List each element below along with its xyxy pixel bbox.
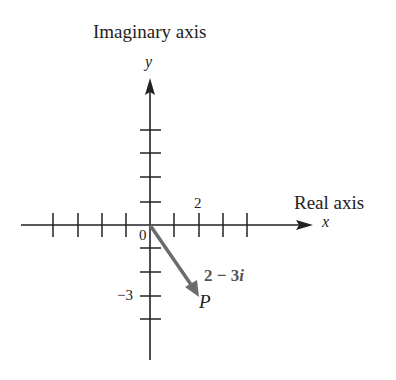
y-variable-label: y: [145, 54, 152, 70]
complex-number-label: 2 − 3i: [204, 267, 244, 284]
complex-unit: i: [239, 266, 244, 285]
complex-real-part: 2: [204, 266, 213, 285]
imaginary-axis-title: Imaginary axis: [93, 22, 206, 41]
x-tick-label-2: 2: [194, 196, 202, 211]
complex-operator: −: [213, 266, 231, 285]
point-p-label: P: [199, 292, 211, 311]
x-variable-label: x: [322, 214, 329, 230]
complex-plane-diagram: [0, 0, 396, 380]
real-axis-title: Real axis: [294, 193, 364, 212]
complex-imag-part: 3: [231, 266, 240, 285]
y-tick-label-neg3: −3: [117, 288, 133, 303]
vector-arrowhead-icon: [185, 280, 199, 297]
vector-to-p: [150, 225, 194, 289]
origin-label: 0: [139, 228, 147, 243]
